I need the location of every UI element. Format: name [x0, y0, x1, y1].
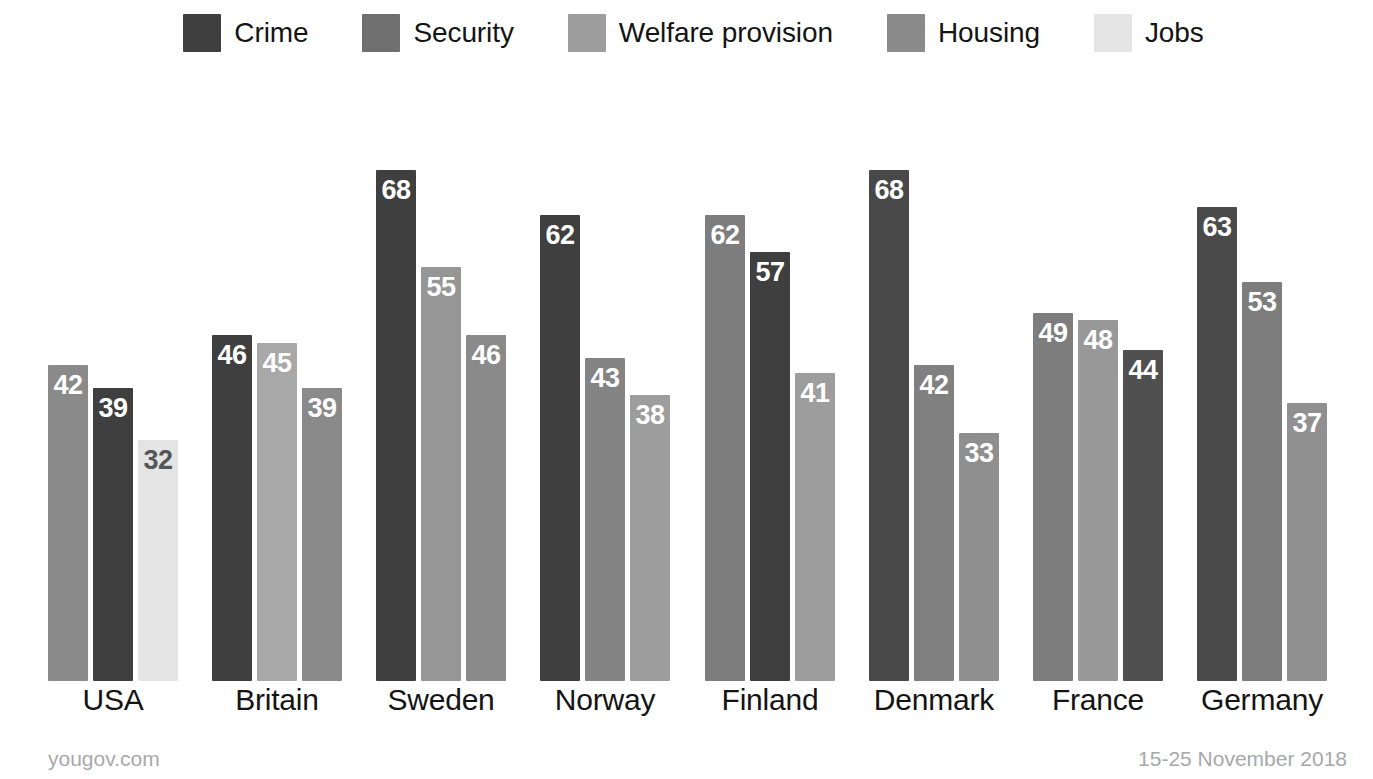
bar-finland-welfare-provision[interactable]: 41 [795, 373, 835, 681]
category-label-norway: Norway [540, 681, 670, 719]
bar-value-label: 48 [1078, 327, 1118, 354]
bar-finland-security[interactable]: 62 [705, 215, 745, 681]
bar-group-bars: 423932 [48, 66, 178, 681]
bar-group-germany: 635337 [1197, 66, 1327, 681]
bar-value-label: 57 [750, 259, 790, 286]
legend-label: Crime [234, 19, 308, 47]
bar-denmark-crime[interactable]: 68 [869, 170, 909, 681]
legend-item-crime[interactable]: Crime [183, 14, 308, 52]
legend-swatch-security-icon [362, 14, 400, 52]
bar-usa-housing[interactable]: 42 [48, 365, 88, 681]
bar-group-bars: 635337 [1197, 66, 1327, 681]
bar-group-usa: 423932 [48, 66, 178, 681]
bar-value-label: 38 [630, 402, 670, 429]
chart-footer: yougov.com 15-25 November 2018 [0, 748, 1373, 779]
category-label-britain: Britain [212, 681, 342, 719]
bar-denmark-welfare-provision[interactable]: 33 [959, 433, 999, 681]
bar-denmark-security[interactable]: 42 [914, 365, 954, 681]
legend-item-jobs[interactable]: Jobs [1094, 14, 1204, 52]
bar-value-label: 33 [959, 440, 999, 467]
legend-swatch-jobs-icon [1094, 14, 1132, 52]
category-label-germany: Germany [1197, 681, 1327, 719]
bar-value-label: 55 [421, 274, 461, 301]
bar-group-sweden: 685546 [376, 66, 506, 681]
bar-group-bars: 625741 [705, 66, 835, 681]
category-axis: USABritainSwedenNorwayFinlandDenmarkFran… [0, 681, 1373, 739]
bar-usa-jobs[interactable]: 32 [138, 440, 178, 681]
bar-value-label: 49 [1033, 320, 1073, 347]
category-label-sweden: Sweden [376, 681, 506, 719]
bar-value-label: 68 [869, 177, 909, 204]
source-label: yougov.com [48, 748, 160, 769]
bar-value-label: 39 [93, 395, 133, 422]
legend-item-security[interactable]: Security [362, 14, 513, 52]
bar-britain-housing[interactable]: 39 [302, 388, 342, 681]
bar-germany-crime[interactable]: 63 [1197, 207, 1237, 681]
bar-france-crime[interactable]: 44 [1123, 350, 1163, 681]
bar-usa-crime[interactable]: 39 [93, 388, 133, 681]
bar-sweden-welfare-provision[interactable]: 55 [421, 267, 461, 681]
bar-value-label: 37 [1287, 410, 1327, 437]
bar-value-label: 62 [540, 222, 580, 249]
chart-page: CrimeSecurityWelfare provisionHousingJob… [0, 0, 1373, 779]
bar-norway-welfare-provision[interactable]: 38 [630, 395, 670, 681]
bar-group-bars: 624338 [540, 66, 670, 681]
bar-group-france: 494844 [1033, 66, 1163, 681]
bar-value-label: 39 [302, 395, 342, 422]
bar-group-bars: 684233 [869, 66, 999, 681]
date-range-label: 15-25 November 2018 [1138, 748, 1347, 769]
bar-value-label: 46 [212, 342, 252, 369]
bar-value-label: 42 [914, 372, 954, 399]
bar-group-bars: 494844 [1033, 66, 1163, 681]
bar-sweden-crime[interactable]: 68 [376, 170, 416, 681]
bar-france-security[interactable]: 49 [1033, 313, 1073, 681]
bar-value-label: 53 [1242, 289, 1282, 316]
bar-value-label: 68 [376, 177, 416, 204]
bar-group-denmark: 684233 [869, 66, 999, 681]
bar-value-label: 43 [585, 365, 625, 392]
legend-label: Security [413, 19, 513, 47]
bar-finland-crime[interactable]: 57 [750, 252, 790, 681]
legend-label: Welfare provision [619, 19, 833, 47]
bar-germany-welfare-provision[interactable]: 37 [1287, 403, 1327, 681]
bar-britain-welfare-provision[interactable]: 45 [257, 343, 297, 681]
bar-group-britain: 464539 [212, 66, 342, 681]
bar-value-label: 63 [1197, 214, 1237, 241]
legend-label: Housing [938, 19, 1040, 47]
bar-britain-crime[interactable]: 46 [212, 335, 252, 681]
category-label-denmark: Denmark [869, 681, 999, 719]
bar-norway-crime[interactable]: 62 [540, 215, 580, 681]
bar-group-bars: 464539 [212, 66, 342, 681]
category-label-finland: Finland [705, 681, 835, 719]
category-label-usa: USA [48, 681, 178, 719]
legend-swatch-housing-icon [887, 14, 925, 52]
bar-value-label: 41 [795, 380, 835, 407]
legend-label: Jobs [1145, 19, 1204, 47]
bar-germany-security[interactable]: 53 [1242, 282, 1282, 681]
legend-item-welfare[interactable]: Welfare provision [568, 14, 833, 52]
category-label-france: France [1033, 681, 1163, 719]
chart-plot-area: 4239324645396855466243386257416842334948… [0, 66, 1373, 681]
bar-value-label: 32 [138, 447, 178, 474]
bar-group-norway: 624338 [540, 66, 670, 681]
bar-value-label: 44 [1123, 357, 1163, 384]
bar-value-label: 45 [257, 350, 297, 377]
bar-value-label: 42 [48, 372, 88, 399]
bar-group-finland: 625741 [705, 66, 835, 681]
legend-swatch-welfare-icon [568, 14, 606, 52]
bar-group-bars: 685546 [376, 66, 506, 681]
bar-norway-housing[interactable]: 43 [585, 358, 625, 681]
bar-france-welfare-provision[interactable]: 48 [1078, 320, 1118, 681]
bar-sweden-housing[interactable]: 46 [466, 335, 506, 681]
bar-value-label: 62 [705, 222, 745, 249]
bar-value-label: 46 [466, 342, 506, 369]
legend-swatch-crime-icon [183, 14, 221, 52]
legend-item-housing[interactable]: Housing [887, 14, 1040, 52]
chart-legend: CrimeSecurityWelfare provisionHousingJob… [0, 0, 1373, 66]
